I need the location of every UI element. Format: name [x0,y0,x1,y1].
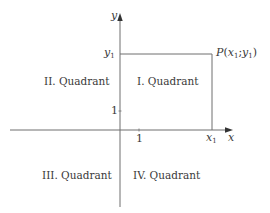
quadrant-2-label: II. Quadrant [44,76,110,87]
x1-label-sub: 1 [212,137,216,145]
y-axis-arrow-icon [117,13,122,21]
axes-graphic [0,0,270,213]
y1-label: y1 [104,47,115,60]
y-tick-label: 1 [111,105,118,116]
quadrant-4-label: IV. Quadrant [133,170,200,181]
coordinate-diagram: y x y1 x1 1 1 P(x1;y1) I. Quadrant II. Q… [0,0,270,213]
point-close-paren: ) [253,46,257,59]
x-tick-label: 1 [136,133,143,144]
quadrant-1-label: I. Quadrant [137,76,198,87]
x1-label: x1 [206,132,217,145]
point-p-label: P(x1;y1) [216,47,257,60]
quadrant-3-label: III. Quadrant [42,170,112,181]
y1-label-sub: 1 [110,52,114,60]
y-axis-label: y [111,10,117,21]
x-axis-label: x [228,132,234,143]
